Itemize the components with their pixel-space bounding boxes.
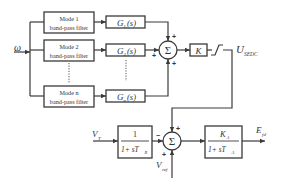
- excitation-sedc-block-diagram: ω Mode 1 band-pass filter G 1 (s) Mode 2…: [0, 0, 283, 186]
- filter1-line1: Mode 1: [59, 15, 78, 22]
- transducer-den-sub: R: [144, 150, 148, 155]
- usedc-sub: SEDC: [244, 51, 258, 57]
- summer2-sign-top: +: [176, 125, 180, 132]
- exciter-block: K A 1+ sT A: [205, 126, 242, 158]
- gain-block-k: K: [190, 44, 207, 56]
- filter-block-mode-2: Mode 2 band-pass filter: [44, 40, 94, 61]
- g1-arg: (s): [127, 18, 136, 28]
- summer1-sign-top: +: [172, 33, 176, 40]
- filter2-line2: band-pass filter: [50, 52, 88, 59]
- filter2-line1: Mode 2: [59, 43, 78, 50]
- gain-block-g2: G 2 (s): [106, 44, 145, 57]
- exciter-num-sub: A: [226, 135, 230, 140]
- summer2-sign-left: −: [156, 132, 160, 139]
- exciter-den: 1+ sT: [208, 145, 227, 154]
- filter1-line2: band-pass filter: [50, 24, 88, 31]
- g2-arg: (s): [127, 46, 136, 56]
- summer1-sign-left: +: [152, 52, 156, 59]
- k-label: K: [194, 46, 202, 56]
- limiter-icon: [211, 45, 223, 55]
- summer2-sigma: Σ: [169, 135, 175, 147]
- gn-arg: (s): [127, 92, 136, 102]
- filtern-line2: band-pass filter: [50, 98, 88, 105]
- gn-to-summer1: [145, 59, 168, 96]
- summer1-sigma: Σ: [165, 44, 171, 56]
- gain-block-g1: G 1 (s): [106, 16, 145, 29]
- filtern-line1: Mode n: [59, 89, 78, 96]
- sedc-output-feedback-line: [172, 50, 232, 132]
- exciter-den-sub: A: [231, 150, 235, 155]
- summing-junction-1: Σ: [159, 41, 177, 59]
- gain-block-gn: G n (s): [106, 90, 145, 103]
- filter-block-mode-n: Mode n band-pass filter: [44, 86, 94, 107]
- transducer-block: 1 1+ sT R: [118, 126, 152, 158]
- efd-sub: fd: [262, 132, 266, 137]
- summing-junction-2: Σ: [163, 132, 181, 150]
- summer2-sign-bottom: +: [162, 151, 166, 158]
- vref-sub: ref: [162, 167, 168, 172]
- filter-block-mode-1: Mode 1 band-pass filter: [44, 12, 94, 33]
- transducer-den: 1+ sT: [121, 145, 140, 154]
- efd-main: E: [255, 125, 262, 135]
- transducer-num: 1: [133, 130, 137, 139]
- g1-to-summer1: [145, 22, 168, 41]
- omega-label: ω: [14, 42, 21, 53]
- summer1-sign-bottom: +: [172, 60, 176, 67]
- vt-sub: T: [98, 136, 102, 141]
